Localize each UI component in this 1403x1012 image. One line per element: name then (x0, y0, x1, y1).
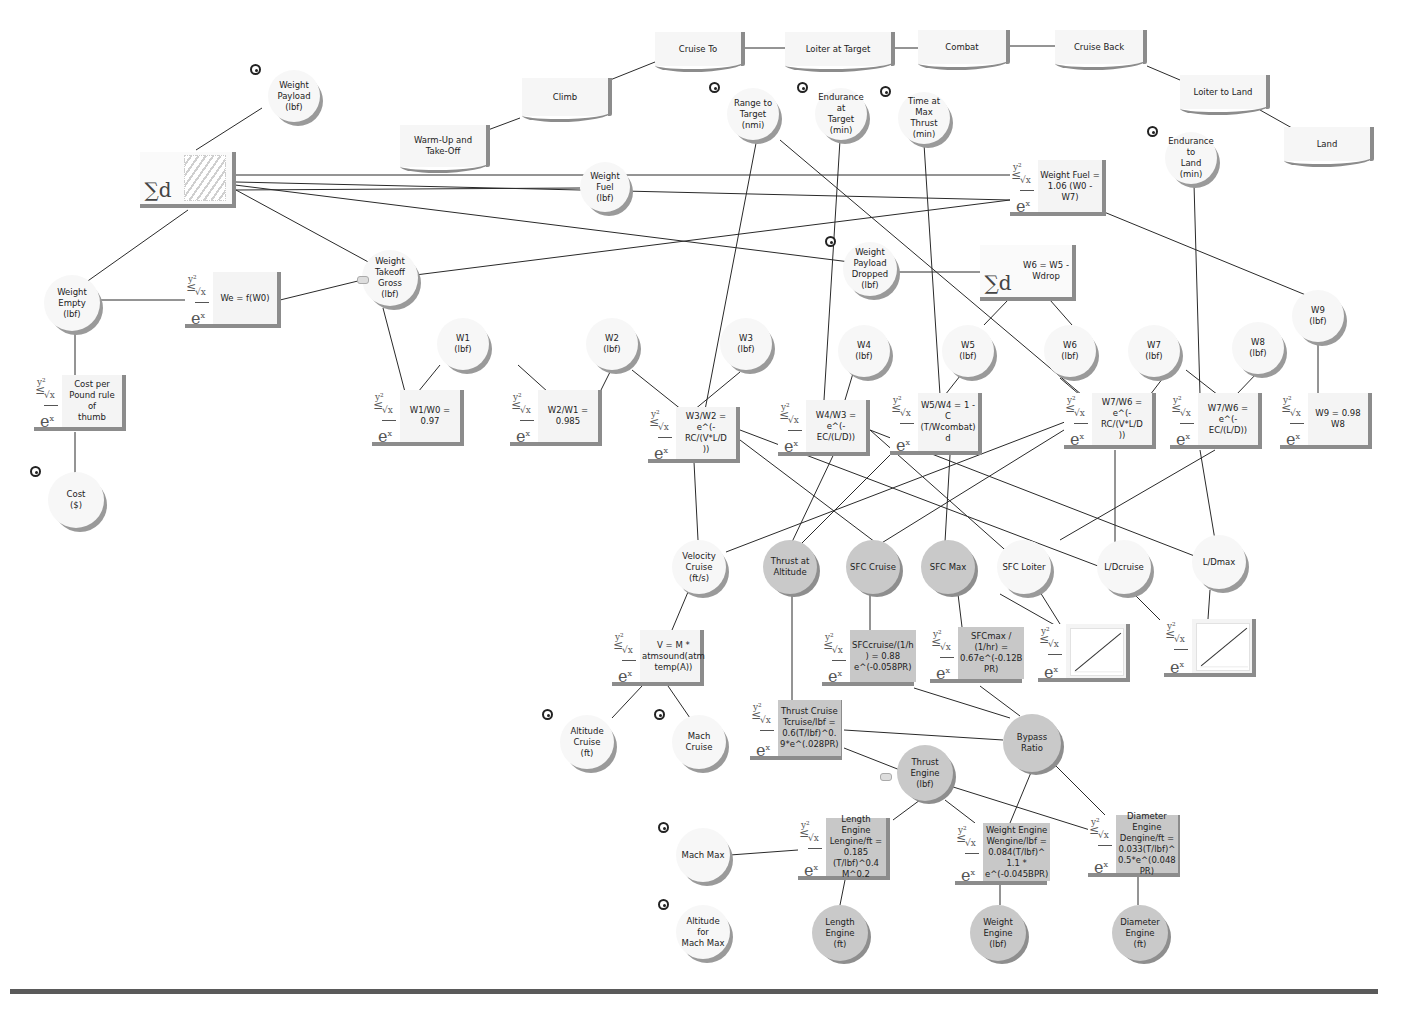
function-node-sfc_cruise_eq[interactable]: y²≤√xexSFCcruise/(1/h ) = 0.88 e^(-0.058… (822, 630, 914, 686)
function-node-we_eq[interactable]: y²≤√xexWe = f(W0) (185, 272, 281, 328)
function-symbol-icon: y²≤√xex (185, 272, 213, 324)
variable-node-w1[interactable]: W1 (lbf) (437, 318, 489, 370)
variable-node-endurance_land[interactable]: Endurance to Land (min) (1165, 132, 1217, 184)
function-node-w7w6_ec_eq[interactable]: y²≤√xexW7/W6 = e^(-EC/(L/D)) (1170, 393, 1262, 449)
variable-label: Weight Payload Dropped (lbf) (848, 247, 892, 291)
hatched-table-icon (184, 155, 226, 201)
function-node-weight_fuel_eq[interactable]: y²≤√xexWeight Fuel = 1.06 (W0 - W7) (1010, 160, 1106, 216)
variable-node-bypass_ratio[interactable]: Bypass Ratio (1003, 714, 1061, 772)
function-node-w1w0_eq[interactable]: y²≤√xexW1/W0 = 0.97 (372, 390, 464, 446)
variable-node-range_target[interactable]: Range to Target (nmi) (727, 88, 779, 140)
variable-node-thrust_altitude[interactable]: Thrust at Altitude (763, 540, 817, 594)
function-symbol-icon: y²≤√xex (1064, 393, 1092, 445)
function-node-sfc_max_eq[interactable]: y²≤√xexSFCmax / (1/hr) = 0.67e^(-0.12B P… (930, 627, 1022, 683)
mission-phase-cruise_to[interactable]: Cruise To (655, 32, 745, 66)
variable-label: W3 (lbf) (733, 333, 758, 355)
variable-node-altitude_mach_max[interactable]: Altitude for Mach Max (676, 905, 730, 959)
variable-label: L/Dcruise (1100, 562, 1148, 573)
influence-arc (844, 748, 900, 770)
function-expression: W2/W1 = 0.985 (538, 390, 598, 442)
sum-delta-icon: ∑d (138, 185, 178, 196)
mission-phase-climb[interactable]: Climb (522, 78, 612, 116)
function-node-cost_eq[interactable]: y²≤√xexCost per Pound rule of thumb (34, 375, 126, 431)
function-node-length_engine_eq[interactable]: y²≤√xexLength Engine Lengine/ft = 0.185 … (798, 818, 890, 880)
mission-phase-label: Loiter to Land (1194, 87, 1253, 98)
variable-node-mach_max[interactable]: Mach Max (676, 828, 730, 882)
mission-phase-loiter_land[interactable]: Loiter to Land (1180, 75, 1270, 109)
sum-delta-icon: ∑d (978, 278, 1018, 289)
influence-arc (610, 62, 655, 80)
variable-node-sfc_max[interactable]: SFC Max (921, 540, 975, 594)
function-node-thrust_cruise_eq[interactable]: y²≤√xexThrust Cruise Tcruise/lbf = 0.6(T… (750, 700, 842, 760)
variable-node-w3[interactable]: W3 (lbf) (720, 318, 772, 370)
variable-node-w2[interactable]: W2 (lbf) (586, 318, 638, 370)
mission-phase-label: Loiter at Target (806, 44, 870, 55)
variable-node-cost[interactable]: Cost ($) (48, 472, 104, 528)
function-node-w9_eq[interactable]: y²≤√xexW9 = 0.98 W8 (1280, 393, 1372, 449)
function-node-velocity_eq[interactable]: y²≤√xexV = M * atmsound(atm temp(A)) (612, 630, 704, 686)
function-node-w7w6_rc_eq[interactable]: y²≤√xexW7/W6 = e^(-RC/(V*L/D )) (1064, 393, 1156, 449)
variable-node-w5[interactable]: W5 (lbf) (942, 325, 994, 377)
variable-node-sfc_loiter[interactable]: SFC Loiter (997, 540, 1051, 594)
function-node-w6_eq[interactable]: ∑dW6 = W5 - Wdrop (980, 245, 1076, 301)
mission-phase-combat[interactable]: Combat (918, 30, 1010, 64)
mission-phase-cruise_back[interactable]: Cruise Back (1055, 30, 1147, 64)
influence-arc (914, 688, 1010, 718)
variable-label: W9 (lbf) (1305, 305, 1330, 327)
variable-node-endurance_target[interactable]: Endurance at Target (min) (815, 88, 867, 140)
variable-label: Range to Target (nmi) (730, 98, 776, 131)
function-node-w4w3_eq[interactable]: y²≤√xexW4/W3 = e^(-EC/(L/D)) (778, 400, 870, 456)
influence-arc (730, 850, 798, 855)
mission-phase-warmup[interactable]: Warm-Up and Take-Off (400, 125, 490, 167)
variable-node-weight_takeoff_gross[interactable]: Weight Takeoff Gross (lbf) (362, 250, 418, 306)
function-node-sum_w0[interactable]: ∑d (140, 152, 236, 208)
function-symbol-icon: y²≤√xex (955, 823, 983, 881)
function-node-w5w4_eq[interactable]: y²≤√xexW5/W4 = 1 - C (T/Wcombat) d (890, 393, 982, 455)
variable-node-ld_cruise[interactable]: L/Dcruise (1097, 540, 1151, 594)
variable-node-diameter_engine[interactable]: Diameter Engine (ft) (1112, 905, 1168, 961)
influence-arc (924, 144, 940, 395)
variable-node-w6[interactable]: W6 (lbf) (1044, 325, 1096, 377)
function-symbol-icon: y²≤√xex (1280, 393, 1308, 445)
variable-node-altitude_cruise[interactable]: Altitude Cruise (ft) (560, 715, 614, 769)
variable-label: Altitude Cruise (ft) (560, 726, 614, 759)
function-node-ld_chart[interactable]: y²≤√xex (1164, 619, 1256, 677)
variable-node-sfc_cruise[interactable]: SFC Cruise (846, 540, 900, 594)
connector-handle[interactable] (880, 773, 892, 781)
variable-node-time_max_thrust[interactable]: Time at Max Thrust (min) (898, 92, 950, 144)
influence-arc (980, 686, 1020, 716)
mission-phase-loiter_target[interactable]: Loiter at Target (785, 32, 895, 66)
variable-node-weight_empty[interactable]: Weight Empty (lbf) (44, 275, 100, 331)
function-symbol-icon: y²≤√xex (34, 375, 62, 427)
variable-node-mach_cruise[interactable]: Mach Cruise (672, 715, 726, 769)
mission-phase-land[interactable]: Land (1284, 127, 1374, 161)
function-expression: W7/W6 = e^(-RC/(V*L/D )) (1092, 393, 1152, 445)
variable-node-w9[interactable]: W9 (lbf) (1292, 290, 1344, 342)
variable-node-length_engine[interactable]: Length Engine (ft) (812, 905, 868, 961)
influence-arc (632, 370, 682, 410)
influence-arc (1050, 760, 1105, 815)
variable-node-weight_fuel[interactable]: Weight Fuel (lbf) (580, 162, 630, 212)
influence-arc (1050, 300, 1072, 325)
function-node-weight_engine_eq[interactable]: y²≤√xexWeight Engine Wengine/lbf = 0.084… (955, 823, 1047, 885)
function-node-diameter_engine_eq[interactable]: y²≤√xexDiameter Engine Dengine/ft = 0.03… (1088, 815, 1180, 877)
variable-node-weight_payload_dropped[interactable]: Weight Payload Dropped (lbf) (843, 242, 897, 296)
variable-node-velocity_cruise[interactable]: Velocity Cruise (ft/s) (672, 540, 726, 594)
variable-node-w8[interactable]: W8 (lbf) (1232, 322, 1284, 374)
variable-node-weight_engine[interactable]: Weight Engine (lbf) (970, 905, 1026, 961)
function-node-w3w2_eq[interactable]: y²≤√xexW3/W2 = e^(-RC/(V*L/D )) (648, 407, 740, 463)
variable-node-w7[interactable]: W7 (lbf) (1128, 325, 1180, 377)
variable-node-weight_payload[interactable]: Weight Payload (lbf) (268, 70, 320, 122)
function-expression: Weight Fuel = 1.06 (W0 - W7) (1038, 160, 1102, 212)
influence-arc (236, 190, 372, 264)
variable-node-ld_max[interactable]: L/Dmax (1192, 535, 1246, 589)
variable-label: Thrust at Altitude (767, 556, 813, 578)
mission-phase-label: Cruise Back (1074, 42, 1124, 53)
variable-node-w4[interactable]: W4 (lbf) (838, 325, 890, 377)
connector-handle[interactable] (357, 276, 369, 284)
function-node-sfc_loiter_chart[interactable]: y²≤√xex (1038, 624, 1130, 682)
function-node-w2w1_eq[interactable]: y²≤√xexW2/W1 = 0.985 (510, 390, 602, 446)
influence-arc (945, 800, 975, 823)
variable-node-thrust_engine[interactable]: Thrust Engine (lbf) (897, 745, 953, 801)
influence-arc (945, 455, 950, 542)
